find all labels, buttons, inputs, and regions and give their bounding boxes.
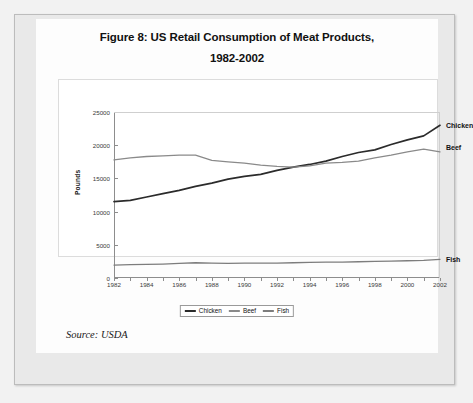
legend-label: Fish bbox=[277, 307, 289, 314]
legend-item-fish: Fish bbox=[263, 307, 289, 314]
legend-swatch-icon bbox=[185, 310, 196, 312]
source-note: Source: USDA bbox=[66, 329, 128, 340]
x-tick-label: 1986 bbox=[172, 281, 186, 288]
x-tick-label: 2000 bbox=[401, 281, 415, 288]
figure-title-line-2: 1982-2002 bbox=[36, 48, 438, 69]
x-tick-label: 1982 bbox=[107, 281, 121, 288]
y-axis-ticks: 0500010000150002000025000 bbox=[74, 112, 110, 278]
x-tick-label: 1994 bbox=[303, 281, 317, 288]
x-tick-mark bbox=[163, 278, 164, 281]
y-tick-label: 10000 bbox=[76, 208, 110, 215]
y-tick-label: 0 bbox=[76, 275, 110, 282]
y-tick-label: 25000 bbox=[76, 109, 110, 116]
x-tick-mark bbox=[261, 278, 262, 281]
figure-title-line-1: Figure 8: US Retail Consumption of Meat … bbox=[100, 31, 374, 43]
figure-outer-frame: Figure 8: US Retail Consumption of Meat … bbox=[14, 14, 455, 385]
x-tick-mark bbox=[326, 278, 327, 281]
series-lines bbox=[114, 112, 440, 278]
legend-label: Chicken bbox=[199, 307, 222, 314]
figure-title: Figure 8: US Retail Consumption of Meat … bbox=[36, 27, 438, 69]
x-tick-label: 1984 bbox=[140, 281, 154, 288]
y-tick-label: 5000 bbox=[76, 241, 110, 248]
x-tick-mark bbox=[130, 278, 131, 281]
series-callout-chicken: Chicken bbox=[446, 122, 473, 129]
x-axis-ticks: 1982198419861988199019921994199619982000… bbox=[114, 281, 440, 295]
y-tick-label: 15000 bbox=[76, 175, 110, 182]
x-tick-mark bbox=[196, 278, 197, 281]
legend-swatch-icon bbox=[229, 310, 240, 312]
x-tick-label: 1992 bbox=[270, 281, 284, 288]
series-line-chicken bbox=[114, 125, 440, 201]
x-tick-mark bbox=[359, 278, 360, 281]
x-tick-label: 1998 bbox=[368, 281, 382, 288]
x-tick-mark bbox=[293, 278, 294, 281]
figure-panel: Figure 8: US Retail Consumption of Meat … bbox=[36, 19, 438, 353]
series-line-beef bbox=[114, 149, 440, 167]
x-tick-label: 2002 bbox=[433, 281, 447, 288]
chart-legend: ChickenBeefFish bbox=[180, 305, 294, 317]
series-callout-fish: Fish bbox=[446, 256, 460, 263]
series-callout-beef: Beef bbox=[446, 144, 461, 151]
legend-item-beef: Beef bbox=[229, 307, 256, 314]
x-tick-label: 1988 bbox=[205, 281, 219, 288]
x-tick-mark bbox=[424, 278, 425, 281]
x-tick-label: 1990 bbox=[238, 281, 252, 288]
legend-swatch-icon bbox=[263, 310, 274, 312]
x-tick-mark bbox=[228, 278, 229, 281]
legend-label: Beef bbox=[243, 307, 256, 314]
plot-area bbox=[114, 112, 440, 278]
x-tick-mark bbox=[391, 278, 392, 281]
y-tick-label: 20000 bbox=[76, 142, 110, 149]
x-tick-label: 1996 bbox=[335, 281, 349, 288]
legend-item-chicken: Chicken bbox=[185, 307, 222, 314]
series-line-fish bbox=[114, 259, 440, 265]
